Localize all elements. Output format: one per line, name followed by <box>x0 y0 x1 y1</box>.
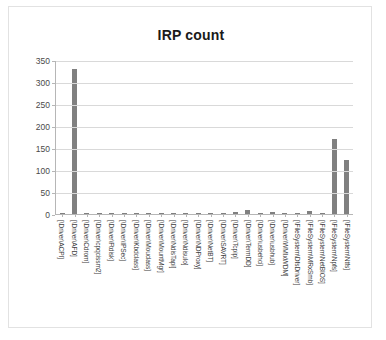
y-axis-tick-label: 100 <box>16 166 50 176</box>
gridline <box>56 193 353 194</box>
y-axis-tick-label: 50 <box>16 188 50 198</box>
y-axis-tick-label: 300 <box>16 78 50 88</box>
x-axis-tick-mark <box>186 214 187 217</box>
gridline <box>56 149 353 150</box>
y-axis-tick-mark <box>52 215 55 216</box>
x-axis-tick-label: [\Driver\usbhub] <box>269 220 276 265</box>
x-label-slot: [\Driver\cpqcissm2] <box>92 218 104 326</box>
x-axis-tick-mark <box>285 214 286 217</box>
x-axis-tick-mark <box>174 214 175 217</box>
x-label-slot: [\FileSystem\Ntfs] <box>341 218 353 326</box>
x-axis-labels: [\Driver\ACPI][\Driver\AFD][\Driver\Cdro… <box>55 218 353 326</box>
x-label-slot: [\FileSystem\DfsDriver] <box>291 218 303 326</box>
x-axis-tick-label: [\Driver\usbehci] <box>256 220 263 266</box>
x-axis-tick-mark <box>248 214 249 217</box>
x-axis-tick-mark <box>149 214 150 217</box>
x-axis-tick-label: [\FileSystem\Npfs] <box>331 220 338 272</box>
x-axis-tick-label: [\Driver\NDProxy] <box>194 220 201 270</box>
x-axis-tick-label: [\Driver\SAVRT] <box>219 220 226 265</box>
x-label-slot: [\FileSystem\MRxSmb] <box>303 218 315 326</box>
x-label-slot: [\Driver\usbhub] <box>266 218 278 326</box>
x-label-slot: [\Driver\IPSec] <box>117 218 129 326</box>
x-label-slot: [\Driver\MountMgr] <box>154 218 166 326</box>
x-axis-tick-mark <box>235 214 236 217</box>
x-label-slot: [\Driver\Kbdclass] <box>130 218 142 326</box>
y-axis-tick-mark <box>52 149 55 150</box>
plot-wrapper: 050100150200250300350 [\Driver\ACPI][\Dr… <box>9 7 373 329</box>
x-axis-tick-label: [\Driver\NdisuIo] <box>182 220 189 266</box>
y-axis-tick-mark <box>52 171 55 172</box>
x-label-slot: [\Driver\WMIxWDM] <box>279 218 291 326</box>
x-axis-tick-label: [\Driver\Mouclass] <box>145 220 152 271</box>
x-label-slot: [\Driver\NdisuIo] <box>179 218 191 326</box>
x-axis-tick-label: [\Driver\NdisTapi] <box>170 220 177 268</box>
x-axis-tick-label: [\Driver\AFD] <box>70 220 77 257</box>
x-axis-tick-mark <box>273 214 274 217</box>
x-label-slot: [\Driver\Cdrom] <box>80 218 92 326</box>
y-axis-tick-label: 150 <box>16 144 50 154</box>
x-axis-tick-mark <box>334 214 335 217</box>
x-axis-tick-mark <box>310 214 311 217</box>
x-axis-tick-label: [\Driver\Kbdclass] <box>132 220 139 270</box>
x-axis-tick-mark <box>297 214 298 217</box>
x-axis-tick-mark <box>87 214 88 217</box>
y-axis-tick-label: 200 <box>16 122 50 132</box>
y-axis-tick-mark <box>52 193 55 194</box>
x-label-slot: [\Driver\TermDD] <box>241 218 253 326</box>
x-label-slot: [\Driver\NdisTapi] <box>167 218 179 326</box>
x-axis-tick-mark <box>62 214 63 217</box>
x-label-slot: [\Driver\usbehci] <box>254 218 266 326</box>
x-axis-tick-label: [\Driver\Tcpip] <box>232 220 239 259</box>
x-label-slot: [\FileSystem\NetBIOS] <box>316 218 328 326</box>
x-axis-tick-mark <box>347 214 348 217</box>
y-axis-tick-mark <box>52 127 55 128</box>
x-axis-tick-label: [\Driver\Ftdisk] <box>107 220 114 261</box>
x-axis-tick-label: [\Driver\WMIxWDM] <box>281 220 288 277</box>
bar[interactable] <box>344 160 349 214</box>
x-axis-tick-label: [\Driver\cpqcissm2] <box>95 220 102 274</box>
x-label-slot: [\Driver\NetBT] <box>204 218 216 326</box>
x-axis-tick-mark <box>260 214 261 217</box>
x-axis-tick-label: [\FileSystem\MRxSmb] <box>306 220 313 285</box>
x-axis-tick-mark <box>198 214 199 217</box>
y-axis-tick-mark <box>52 61 55 62</box>
x-axis-tick-mark <box>75 214 76 217</box>
x-label-slot: [\Driver\SAVRT] <box>216 218 228 326</box>
x-label-slot: [\FileSystem\Npfs] <box>328 218 340 326</box>
x-axis-tick-mark <box>211 214 212 217</box>
x-label-slot: [\Driver\Ftdisk] <box>105 218 117 326</box>
x-axis-tick-label: [\Driver\IPSec] <box>120 220 127 261</box>
bar[interactable] <box>332 139 337 214</box>
gridline <box>56 83 353 84</box>
x-axis-tick-mark <box>223 214 224 217</box>
x-axis-tick-mark <box>99 214 100 217</box>
x-axis-tick-label: [\Driver\Cdrom] <box>83 220 90 263</box>
x-label-slot: [\Driver\ACPI] <box>55 218 67 326</box>
x-label-slot: [\Driver\Tcpip] <box>229 218 241 326</box>
y-axis-tick-label: 350 <box>16 56 50 66</box>
x-axis-tick-mark <box>136 214 137 217</box>
x-axis-tick-label: [\FileSystem\Ntfs] <box>343 220 350 270</box>
y-axis-tick-label: 250 <box>16 100 50 110</box>
x-axis-tick-mark <box>161 214 162 217</box>
gridline <box>56 61 353 62</box>
x-axis-tick-label: [\Driver\TermDD] <box>244 220 251 268</box>
x-axis-tick-label: [\FileSystem\NetBIOS] <box>319 220 326 284</box>
chart-container: IRP count 050100150200250300350 [\Driver… <box>8 6 372 328</box>
x-axis-tick-label: [\FileSystem\DfsDriver] <box>294 220 301 285</box>
gridline <box>56 105 353 106</box>
x-axis-tick-mark <box>112 214 113 217</box>
y-axis-tick-mark <box>52 83 55 84</box>
x-label-slot: [\Driver\NDProxy] <box>192 218 204 326</box>
x-axis-tick-mark <box>322 214 323 217</box>
x-axis-tick-label: [\Driver\MountMgr] <box>157 220 164 273</box>
gridline <box>56 127 353 128</box>
x-label-slot: [\Driver\Mouclass] <box>142 218 154 326</box>
y-axis-tick-mark <box>52 105 55 106</box>
x-axis-tick-mark <box>124 214 125 217</box>
plot-area <box>55 61 353 215</box>
gridline <box>56 171 353 172</box>
y-axis-tick-label: 0 <box>16 210 50 220</box>
x-axis-tick-label: [\Driver\ACPI] <box>58 220 65 259</box>
x-axis-tick-label: [\Driver\NetBT] <box>207 220 214 262</box>
